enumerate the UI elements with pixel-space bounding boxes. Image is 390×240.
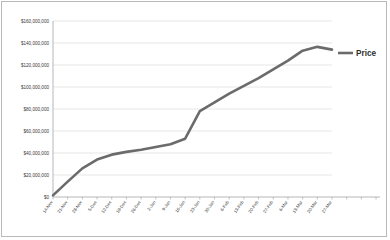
x-axis-tick-label: 6-Feb bbox=[219, 199, 230, 212]
x-axis-tick-label: 21-Nov bbox=[56, 199, 69, 214]
y-axis-tick-label: $100,000,000 bbox=[21, 85, 50, 90]
x-axis-tick-label: 16-Jan bbox=[174, 199, 186, 213]
y-axis-tick-label: $60,000,000 bbox=[23, 129, 49, 134]
y-axis-tick-label: $0 bbox=[44, 195, 50, 200]
y-axis-tick-label: $20,000,000 bbox=[23, 173, 49, 178]
x-axis-tick-label: 12-Dec bbox=[100, 199, 113, 214]
x-axis-tick-label: 2-Jan bbox=[146, 199, 157, 211]
x-axis-tick-label: 27-Feb bbox=[262, 199, 274, 214]
x-axis-tick-label: 28-Nov bbox=[71, 199, 84, 214]
y-axis-tick-label: $120,000,000 bbox=[21, 63, 50, 68]
x-axis-tick-label: 6-Mar bbox=[278, 199, 289, 212]
x-axis-tick-label: 13-Mar bbox=[291, 199, 303, 214]
y-axis-tick-label: $40,000,000 bbox=[23, 151, 49, 156]
x-axis-tick-label: 20-Mar bbox=[306, 199, 318, 214]
chart-container: $0$20,000,000$40,000,000$60,000,000$80,0… bbox=[1, 1, 387, 237]
y-axis-tick-label: $140,000,000 bbox=[21, 41, 50, 46]
x-axis-tick-label: 23-Jan bbox=[189, 199, 201, 213]
series-line-price bbox=[53, 47, 332, 196]
y-axis-tick-label: $80,000,000 bbox=[23, 107, 49, 112]
x-axis-tick-label: 19-Dec bbox=[115, 199, 128, 214]
y-axis-tick-label: $160,000,000 bbox=[21, 19, 50, 24]
line-chart: $0$20,000,000$40,000,000$60,000,000$80,0… bbox=[2, 2, 388, 238]
x-axis-tick-label: 30-Jan bbox=[204, 199, 216, 213]
x-axis-tick-label: 13-Feb bbox=[233, 199, 245, 214]
legend-label-price: Price bbox=[356, 49, 376, 58]
x-axis-tick-label: 9-Jan bbox=[161, 199, 172, 211]
x-axis-tick-label: 14-Nov bbox=[42, 199, 55, 214]
x-axis-tick-label: 27-Mar bbox=[321, 199, 333, 214]
x-axis-tick-label: 5-Dec bbox=[87, 199, 98, 212]
plot-area: $0$20,000,000$40,000,000$60,000,000$80,0… bbox=[2, 2, 386, 236]
x-axis-tick-label: 26-Dec bbox=[130, 199, 143, 214]
x-axis-tick-label: 20-Feb bbox=[247, 199, 259, 214]
